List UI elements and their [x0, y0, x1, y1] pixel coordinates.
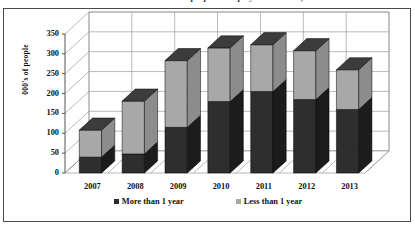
y-tick-100: 100 [33, 128, 59, 137]
y-tick-200: 200 [33, 89, 59, 98]
chart-bar-2008 [122, 89, 157, 173]
legend-entry-less-than-1-year[interactable]: Less than 1 year [236, 197, 302, 206]
x-tick-2008: 2008 [115, 182, 155, 191]
x-tick-2009: 2009 [158, 182, 198, 191]
x-tick-2010: 2010 [201, 182, 241, 191]
chart-title-strip: Number of people unemployed in Britain, … [0, 0, 415, 7]
chart-bar-2012 [294, 39, 329, 173]
y-tick-350: 350 [33, 29, 59, 38]
y-tick-250: 250 [33, 69, 59, 78]
y-tick-50: 50 [33, 148, 59, 157]
x-tick-2012: 2012 [287, 182, 327, 191]
chart-title: Number of people unemployed in Britain, … [148, 0, 343, 2]
chart-frame: 000's of people 350300250200150100500 20… [3, 8, 411, 222]
legend-label: More than 1 year [122, 197, 184, 206]
x-tick-2011: 2011 [244, 182, 284, 191]
y-tick-150: 150 [33, 108, 59, 117]
legend-entry-more-than-1-year[interactable]: More than 1 year [114, 197, 184, 206]
chart-legend: More than 1 yearLess than 1 year [4, 197, 412, 206]
y-tick-300: 300 [33, 49, 59, 58]
chart-bar-2010 [208, 36, 243, 173]
y-axis-title: 000's of people [21, 25, 30, 115]
legend-label: Less than 1 year [244, 197, 302, 206]
legend-swatch-icon [236, 199, 241, 204]
x-tick-2007: 2007 [72, 182, 112, 191]
chart-bar-2011 [251, 33, 286, 173]
y-tick-0: 0 [33, 168, 59, 177]
chart-bar-2009 [165, 49, 200, 173]
legend-swatch-icon [114, 199, 119, 204]
chart-bar-2007 [79, 118, 114, 173]
x-tick-2013: 2013 [330, 182, 370, 191]
chart-bar-2013 [336, 58, 371, 173]
